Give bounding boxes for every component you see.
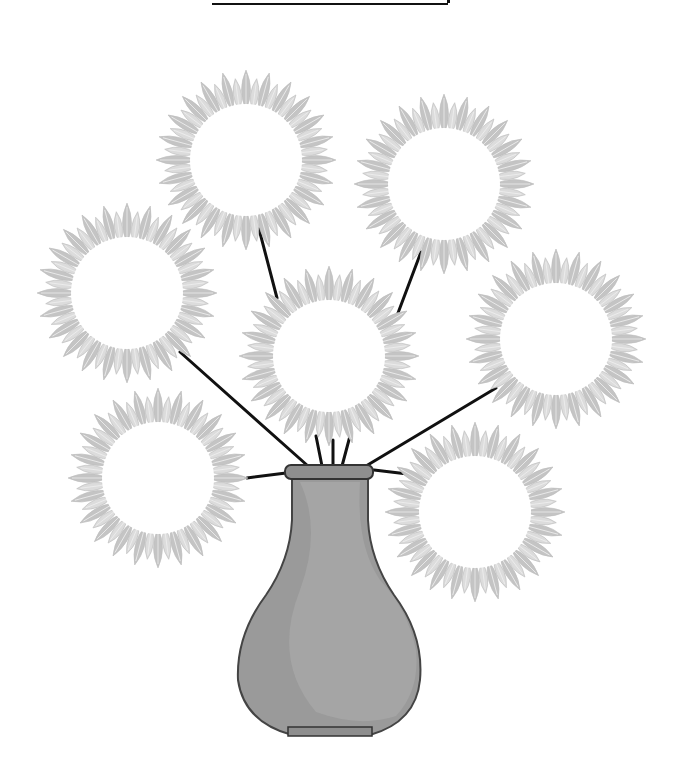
flower-center: [239, 266, 419, 446]
flower-vase-illustration: [0, 0, 690, 776]
vase-base: [288, 727, 372, 736]
stem-top-right: [398, 252, 421, 313]
flower-top-left: [156, 70, 336, 250]
flower-center-blank[interactable]: [388, 128, 500, 240]
flower-middle-right: [466, 249, 646, 429]
stem-bottom-left: [247, 473, 286, 478]
flower-center-blank[interactable]: [102, 422, 214, 534]
flower-center-blank[interactable]: [190, 104, 302, 216]
stem-center-1: [316, 436, 322, 466]
flower-bottom-left: [68, 388, 248, 568]
stem-center-3: [342, 436, 350, 466]
vase-rim: [285, 465, 373, 479]
flower-top-right: [354, 94, 534, 274]
flower-middle-left: [37, 203, 217, 383]
flower-bottom-right: [385, 422, 565, 602]
flower-center-blank[interactable]: [71, 237, 183, 349]
flower-center-blank[interactable]: [419, 456, 531, 568]
vase: [238, 465, 421, 736]
flower-center-blank[interactable]: [273, 300, 385, 412]
flower-center-blank[interactable]: [500, 283, 612, 395]
